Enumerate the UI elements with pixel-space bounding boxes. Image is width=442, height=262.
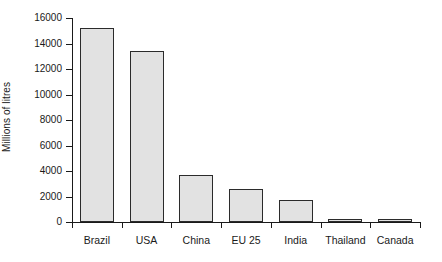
x-tick-mark bbox=[420, 223, 421, 228]
y-tick-label: 12000 bbox=[16, 64, 62, 74]
x-tick-mark bbox=[122, 223, 123, 228]
bar-chart: Millions of litres 160001400012000100008… bbox=[0, 0, 442, 262]
x-tick-mark bbox=[370, 223, 371, 228]
x-tick-mark bbox=[171, 223, 172, 228]
bar bbox=[279, 200, 313, 222]
bar bbox=[130, 51, 164, 222]
y-tick-label: 6000 bbox=[16, 141, 62, 151]
bar bbox=[80, 28, 114, 222]
bar bbox=[378, 219, 412, 222]
x-axis-label: EU 25 bbox=[221, 234, 271, 246]
x-axis-line bbox=[72, 222, 421, 223]
y-tick-label: 10000 bbox=[16, 90, 62, 100]
x-axis-label: China bbox=[171, 234, 221, 246]
bar bbox=[179, 175, 213, 222]
x-tick-mark bbox=[72, 223, 73, 228]
y-axis-title: Millions of litres bbox=[0, 6, 14, 228]
y-tick-label: 8000 bbox=[16, 115, 62, 125]
x-tick-mark bbox=[221, 223, 222, 228]
y-tick-label: 4000 bbox=[16, 166, 62, 176]
y-tick-label: 16000 bbox=[16, 13, 62, 23]
bar bbox=[328, 219, 362, 222]
x-axis-label: India bbox=[271, 234, 321, 246]
bar bbox=[229, 189, 263, 222]
x-tick-mark bbox=[321, 223, 322, 228]
x-axis-label: Brazil bbox=[72, 234, 122, 246]
y-tick-label: 0 bbox=[16, 217, 62, 227]
x-tick-mark bbox=[271, 223, 272, 228]
y-tick-label: 14000 bbox=[16, 39, 62, 49]
y-tick-label: 2000 bbox=[16, 192, 62, 202]
x-axis-label: USA bbox=[122, 234, 172, 246]
plot-area bbox=[72, 18, 420, 222]
x-axis-label: Thailand bbox=[321, 234, 371, 246]
x-axis-label: Canada bbox=[370, 234, 420, 246]
